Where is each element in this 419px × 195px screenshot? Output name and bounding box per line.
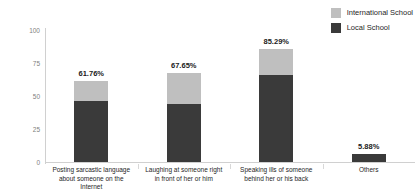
x-axis-tick-separator — [323, 164, 324, 169]
legend-item-international-school: International School — [331, 8, 413, 18]
y-axis-tick-label: 50 — [33, 93, 40, 100]
y-axis-tick-label: 25 — [33, 126, 40, 133]
category-label-line: behind her or his back — [230, 175, 322, 184]
x-axis-tick-separator — [230, 164, 231, 169]
bar-stack[interactable]: 67.65% — [167, 73, 201, 162]
category-label-line: Internet — [45, 183, 137, 192]
x-axis-tick-separator — [138, 164, 139, 169]
category-label-line: about someone on the — [45, 175, 137, 184]
bar-segment-international-school[interactable] — [259, 49, 293, 74]
bar-segment-local-school[interactable] — [167, 104, 201, 162]
bar-total-label: 67.65% — [171, 61, 196, 70]
bar-total-label: 61.76% — [79, 69, 104, 78]
x-axis-line — [45, 162, 415, 163]
bar-total-label: 85.29% — [264, 37, 289, 46]
plot-area: 025507510061.76%67.65%85.29%5.88% — [45, 30, 415, 162]
bar-segment-local-school[interactable] — [259, 75, 293, 163]
bar-stack[interactable]: 85.29% — [259, 49, 293, 162]
x-axis-category-label: Speaking ills of someonebehind her or hi… — [230, 166, 322, 183]
bar-total-label: 5.88% — [358, 142, 379, 151]
legend-swatch-international-school — [331, 8, 341, 18]
category-label-line: Speaking ills of someone — [230, 166, 322, 175]
category-label-line: Laughing at someone right — [138, 166, 230, 175]
y-axis-tick-label: 0 — [36, 159, 40, 166]
x-axis-category-labels: Posting sarcastic languageabout someone … — [45, 164, 415, 195]
category-label-line: in front of her or him — [138, 175, 230, 184]
x-axis-category-label: Posting sarcastic languageabout someone … — [45, 166, 137, 192]
bar-segment-international-school[interactable] — [74, 81, 108, 102]
y-axis-tick-label: 75 — [33, 60, 40, 67]
x-axis-category-label: Laughing at someone rightin front of her… — [138, 166, 230, 183]
bar-segment-international-school[interactable] — [167, 73, 201, 105]
y-axis-tick-label: 100 — [29, 27, 40, 34]
bar-segment-local-school[interactable] — [74, 101, 108, 162]
x-axis-category-label: Others — [323, 166, 415, 175]
bar-segment-local-school[interactable] — [352, 154, 386, 162]
bar-stack[interactable]: 61.76% — [74, 81, 108, 163]
category-label-line: Others — [323, 166, 415, 175]
bar-stack[interactable]: 5.88% — [352, 154, 386, 162]
legend-label-international-school: International School — [347, 8, 413, 18]
category-label-line: Posting sarcastic language — [45, 166, 137, 175]
stacked-bar-chart: International School Local School 025507… — [0, 0, 419, 195]
